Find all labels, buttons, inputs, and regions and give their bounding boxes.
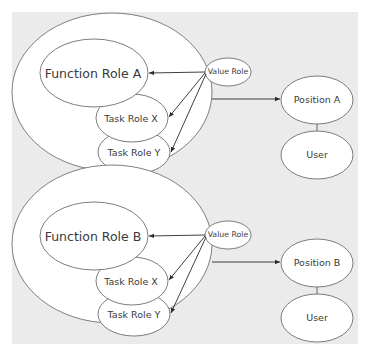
function-role-b: Function Role B: [40, 202, 148, 270]
position-a-label: Position A: [294, 94, 341, 105]
task-role-y-a-label: Task Role Y: [107, 147, 161, 158]
task-role-y-b-label: Task Role Y: [107, 309, 161, 320]
function-role-b-label: Function Role B: [45, 229, 142, 244]
position-b-label: Position B: [294, 257, 341, 268]
figure-caption: [12, 350, 358, 360]
function-role-a-label: Function Role A: [45, 66, 142, 81]
user-b-label: User: [306, 312, 328, 323]
function-role-a: Function Role A: [40, 39, 148, 107]
value-role-a: Value Role: [205, 58, 251, 86]
user-a: User: [281, 131, 353, 179]
value-role-b-label: Value Role: [208, 230, 249, 239]
user-a-label: User: [306, 149, 328, 160]
role-diagram: Task Role Y Task Role X Function Role A …: [0, 0, 370, 360]
position-a: Position A: [281, 76, 353, 124]
position-b: Position B: [281, 239, 353, 287]
task-role-x-b-label: Task Role X: [103, 276, 158, 287]
value-role-b: Value Role: [205, 221, 251, 249]
user-b: User: [281, 294, 353, 342]
value-role-a-label: Value Role: [208, 67, 249, 76]
task-role-x-a-label: Task Role X: [103, 113, 158, 124]
